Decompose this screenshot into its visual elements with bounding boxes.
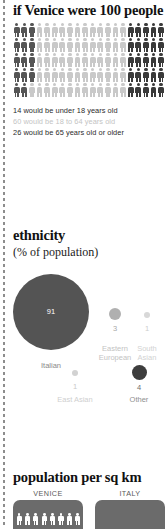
- bubble-south-asian-label-line2: Asian: [138, 353, 157, 362]
- person-figure: [142, 83, 150, 98]
- person-figure: [74, 83, 82, 98]
- person-figure: [157, 38, 165, 53]
- section-if-venice-were-100-people: if Venice were 100 people 14 would be un…: [13, 3, 167, 138]
- person-figure: [59, 23, 67, 38]
- person-figure: [81, 38, 89, 53]
- person-figure: [36, 83, 44, 98]
- person-figure: [142, 38, 150, 53]
- person-figure: [97, 38, 105, 53]
- person-figure: [21, 23, 29, 38]
- person-figure: [127, 38, 135, 53]
- person-figure: [81, 83, 89, 98]
- person-figure: [28, 53, 36, 68]
- density-venice-figures: [15, 513, 82, 525]
- density-person-figure: [57, 513, 65, 525]
- person-figure: [97, 53, 105, 68]
- density-person-figure: [15, 513, 23, 525]
- person-figure: [119, 38, 127, 53]
- person-figure: [43, 23, 51, 38]
- person-figure: [43, 53, 51, 68]
- person-figure: [36, 23, 44, 38]
- person-figure: [21, 38, 29, 53]
- person-figure: [28, 38, 36, 53]
- pictogram-chart: [13, 23, 165, 98]
- bubble-east-asian: [72, 370, 78, 376]
- page-title: if Venice were 100 people: [13, 3, 167, 19]
- person-figure: [59, 53, 67, 68]
- person-figure: [89, 53, 97, 68]
- person-figure: [13, 68, 21, 83]
- person-figure: [119, 23, 127, 38]
- person-figure: [89, 68, 97, 83]
- person-figure: [157, 83, 165, 98]
- density-person-figure: [49, 513, 57, 525]
- person-figure: [135, 23, 143, 38]
- person-figure: [89, 23, 97, 38]
- person-figure: [150, 53, 158, 68]
- person-figure: [89, 38, 97, 53]
- person-figure: [21, 53, 29, 68]
- ethnicity-subtitle: (% of population): [13, 245, 167, 260]
- bubble-other-label: Other: [117, 395, 161, 404]
- person-figure: [43, 68, 51, 83]
- person-figure: [127, 83, 135, 98]
- person-figure: [81, 68, 89, 83]
- person-figure: [59, 68, 67, 83]
- density-caption-italy: ITALY: [95, 489, 165, 498]
- person-figure: [104, 23, 112, 38]
- person-figure: [74, 68, 82, 83]
- density-panel-italy: [95, 500, 165, 529]
- pictogram-legend-item: 14 would be under 18 years old: [13, 105, 167, 116]
- person-figure: [66, 23, 74, 38]
- person-figure: [36, 38, 44, 53]
- density-caption-venice: VENICE: [13, 489, 83, 498]
- person-figure: [150, 38, 158, 53]
- person-figure: [104, 68, 112, 83]
- person-figure: [51, 83, 59, 98]
- section-ethnicity: ethnicity (% of population) 91 Italian 3…: [13, 228, 167, 416]
- density-person-figure: [65, 513, 73, 525]
- person-figure: [112, 83, 120, 98]
- person-figure: [119, 53, 127, 68]
- person-figure: [51, 23, 59, 38]
- person-figure: [97, 68, 105, 83]
- person-figure: [81, 53, 89, 68]
- bubble-east-asian-label: East Asian: [53, 395, 97, 404]
- person-figure: [59, 38, 67, 53]
- person-figure: [112, 68, 120, 83]
- person-figure: [74, 53, 82, 68]
- person-figure: [59, 83, 67, 98]
- bubble-south-asian: [144, 312, 150, 318]
- person-figure: [13, 83, 21, 98]
- person-figure: [13, 23, 21, 38]
- person-figure: [104, 38, 112, 53]
- person-figure: [112, 23, 120, 38]
- pictogram-legend-item: 60 would be 18 to 64 years old: [13, 116, 167, 127]
- person-figure: [97, 23, 105, 38]
- person-figure: [135, 38, 143, 53]
- person-figure: [28, 83, 36, 98]
- person-figure: [74, 38, 82, 53]
- density-person-figure: [32, 513, 40, 525]
- person-figure: [28, 23, 36, 38]
- section-population-density: population per sq km VENICE ITALY: [13, 470, 167, 528]
- person-figure: [81, 23, 89, 38]
- dotted-rail-divider: [3, 0, 5, 528]
- person-figure: [66, 68, 74, 83]
- person-figure: [150, 83, 158, 98]
- person-figure: [112, 53, 120, 68]
- person-figure: [157, 23, 165, 38]
- person-figure: [142, 68, 150, 83]
- person-figure: [51, 53, 59, 68]
- bubble-eastern-european: [109, 308, 121, 320]
- person-figure: [66, 38, 74, 53]
- person-figure: [135, 83, 143, 98]
- person-figure: [43, 83, 51, 98]
- person-figure: [135, 68, 143, 83]
- person-figure: [97, 83, 105, 98]
- bubble-south-asian-label-line1: South: [137, 344, 157, 353]
- person-figure: [21, 83, 29, 98]
- person-figure: [66, 83, 74, 98]
- person-figure: [104, 83, 112, 98]
